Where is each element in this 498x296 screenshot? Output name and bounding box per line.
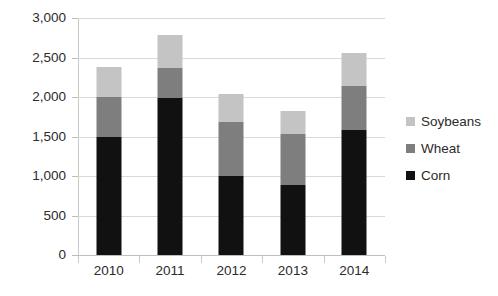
x-axis-tick: [139, 256, 140, 263]
legend-label: Corn: [421, 169, 450, 183]
y-tick-label: 500: [4, 209, 66, 223]
x-tick-label: 2012: [201, 263, 262, 278]
x-tick-label: 2014: [324, 263, 385, 278]
y-tick-label: 2,000: [4, 90, 66, 104]
bar-segment-soybeans[interactable]: [280, 111, 305, 134]
legend-item-wheat[interactable]: Wheat: [406, 135, 498, 162]
gridline: [78, 255, 385, 256]
bar-segment-wheat[interactable]: [96, 97, 121, 137]
stacked-bar[interactable]: [342, 53, 367, 255]
bar-segment-corn[interactable]: [96, 137, 121, 256]
bar-group: [324, 18, 385, 255]
bar-segment-wheat[interactable]: [280, 134, 305, 185]
legend-label: Soybeans: [421, 115, 481, 129]
y-tick-label: 0: [4, 248, 66, 262]
x-axis-tick: [78, 256, 79, 263]
bar-group: [262, 18, 323, 255]
stacked-bar-chart: 3,0002,5002,0001,5001,0005000 2010201120…: [0, 0, 498, 296]
bar-segment-corn[interactable]: [158, 98, 183, 255]
bar-segment-wheat[interactable]: [219, 122, 244, 176]
legend-swatch-icon: [406, 171, 415, 180]
bar-segment-corn[interactable]: [219, 176, 244, 255]
bar-segment-corn[interactable]: [342, 130, 367, 255]
x-axis-tick: [201, 256, 202, 263]
legend-item-corn[interactable]: Corn: [406, 162, 498, 189]
bar-segment-wheat[interactable]: [342, 86, 367, 130]
bar-segment-corn[interactable]: [280, 185, 305, 255]
stacked-bar[interactable]: [280, 111, 305, 255]
stacked-bar[interactable]: [158, 35, 183, 255]
bar-group: [201, 18, 262, 255]
y-tick-label: 3,000: [4, 11, 66, 25]
bar-segment-wheat[interactable]: [158, 68, 183, 98]
legend-item-soybeans[interactable]: Soybeans: [406, 108, 498, 135]
bar-segment-soybeans[interactable]: [96, 67, 121, 97]
legend-label: Wheat: [421, 142, 460, 156]
bar-segment-soybeans[interactable]: [158, 35, 183, 67]
x-axis-tick: [262, 256, 263, 263]
stacked-bar[interactable]: [219, 94, 244, 255]
x-tick-label: 2013: [262, 263, 323, 278]
legend-swatch-icon: [406, 144, 415, 153]
bar-group: [78, 18, 139, 255]
legend-swatch-icon: [406, 117, 415, 126]
x-tick-label: 2011: [139, 263, 200, 278]
x-axis-tick: [385, 256, 386, 263]
x-axis-tick: [324, 256, 325, 263]
chart-legend: SoybeansWheatCorn: [406, 108, 498, 189]
stacked-bar[interactable]: [96, 67, 121, 255]
y-tick-label: 1,500: [4, 130, 66, 144]
x-tick-label: 2010: [78, 263, 139, 278]
y-tick-label: 2,500: [4, 51, 66, 65]
bar-segment-soybeans[interactable]: [219, 94, 244, 122]
plot-area: [78, 18, 385, 255]
bar-group: [139, 18, 200, 255]
y-tick-label: 1,000: [4, 169, 66, 183]
bar-segment-soybeans[interactable]: [342, 53, 367, 86]
